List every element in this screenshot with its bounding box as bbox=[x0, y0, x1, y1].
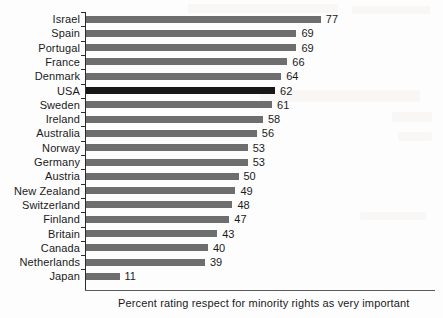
bar bbox=[86, 187, 235, 194]
bar-highlighted bbox=[86, 87, 275, 94]
chart-row: Britain43 bbox=[0, 227, 443, 241]
bar bbox=[86, 244, 208, 251]
chart-row: Ireland58 bbox=[0, 112, 443, 126]
chart-row: France66 bbox=[0, 55, 443, 69]
chart-row: Canada40 bbox=[0, 241, 443, 255]
chart-row: USA62 bbox=[0, 84, 443, 98]
x-axis-caption: Percent rating respect for minority righ… bbox=[118, 296, 409, 310]
x-axis-line bbox=[85, 290, 435, 291]
y-axis-line bbox=[85, 12, 86, 291]
category-label: USA bbox=[0, 84, 80, 98]
bar bbox=[86, 73, 281, 80]
bar-value-label: 62 bbox=[280, 84, 292, 98]
bar bbox=[86, 30, 296, 37]
chart-row: Switzerland48 bbox=[0, 198, 443, 212]
bar-value-label: 40 bbox=[213, 241, 225, 255]
bar bbox=[86, 130, 257, 137]
category-label: Spain bbox=[0, 26, 80, 40]
category-label: Austria bbox=[0, 169, 80, 183]
bar bbox=[86, 259, 205, 266]
bar bbox=[86, 216, 229, 223]
category-label: Denmark bbox=[0, 69, 80, 83]
bar bbox=[86, 230, 217, 237]
chart-row: Germany53 bbox=[0, 155, 443, 169]
chart-row: Denmark64 bbox=[0, 69, 443, 83]
bar bbox=[86, 58, 287, 65]
bar-value-label: 64 bbox=[286, 69, 298, 83]
bar bbox=[86, 159, 248, 166]
chart-row: Spain69 bbox=[0, 26, 443, 40]
chart-row: New Zealand49 bbox=[0, 184, 443, 198]
bar-value-label: 48 bbox=[237, 198, 249, 212]
category-label: Finland bbox=[0, 212, 80, 226]
category-label: France bbox=[0, 55, 80, 69]
category-label: Switzerland bbox=[0, 198, 80, 212]
bar-value-label: 50 bbox=[244, 169, 256, 183]
bar-value-label: 47 bbox=[234, 212, 246, 226]
category-label: New Zealand bbox=[0, 184, 80, 198]
chart-row: Japan11 bbox=[0, 269, 443, 283]
chart-row: Finland47 bbox=[0, 212, 443, 226]
bar bbox=[86, 201, 232, 208]
plot-area: Israel77Spain69Portugal69France66Denmark… bbox=[0, 0, 443, 318]
category-label: Norway bbox=[0, 141, 80, 155]
bar-value-label: 53 bbox=[253, 141, 265, 155]
bar-value-label: 69 bbox=[301, 41, 313, 55]
chart-row: Australia56 bbox=[0, 126, 443, 140]
bar-value-label: 11 bbox=[125, 269, 136, 283]
bar bbox=[86, 101, 272, 108]
bar bbox=[86, 173, 239, 180]
category-label: Portugal bbox=[0, 41, 80, 55]
category-label: Germany bbox=[0, 155, 80, 169]
bar-value-label: 49 bbox=[240, 184, 252, 198]
bar-value-label: 77 bbox=[326, 12, 338, 26]
chart-row: Austria50 bbox=[0, 169, 443, 183]
category-label: Netherlands bbox=[0, 255, 80, 269]
bar-value-label: 53 bbox=[253, 155, 265, 169]
chart-row: Netherlands39 bbox=[0, 255, 443, 269]
bar-value-label: 66 bbox=[292, 55, 304, 69]
chart-row: Portugal69 bbox=[0, 41, 443, 55]
bar-value-label: 43 bbox=[222, 227, 234, 241]
bar bbox=[86, 16, 321, 23]
category-label: Ireland bbox=[0, 112, 80, 126]
bar-chart-figure: Israel77Spain69Portugal69France66Denmark… bbox=[0, 0, 443, 318]
category-label: Canada bbox=[0, 241, 80, 255]
chart-row: Israel77 bbox=[0, 12, 443, 26]
bar bbox=[86, 44, 296, 51]
chart-row: Norway53 bbox=[0, 141, 443, 155]
bar bbox=[86, 144, 248, 151]
category-label: Australia bbox=[0, 126, 80, 140]
bar bbox=[86, 116, 263, 123]
bar-value-label: 56 bbox=[262, 126, 274, 140]
bar-value-label: 39 bbox=[210, 255, 222, 269]
category-label: Israel bbox=[0, 12, 80, 26]
bar-value-label: 69 bbox=[301, 26, 313, 40]
category-label: Japan bbox=[0, 269, 80, 283]
bar bbox=[86, 273, 120, 280]
category-label: Britain bbox=[0, 227, 80, 241]
chart-row: Sweden61 bbox=[0, 98, 443, 112]
bar-value-label: 58 bbox=[268, 112, 280, 126]
category-label: Sweden bbox=[0, 98, 80, 112]
bar-value-label: 61 bbox=[277, 98, 289, 112]
